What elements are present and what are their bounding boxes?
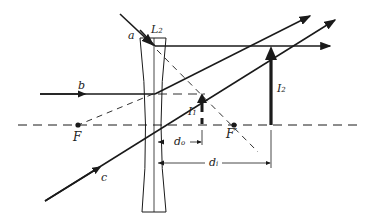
- image-i1-label: I1: [188, 106, 197, 117]
- lens-label: L2: [151, 24, 163, 35]
- ray-diagram: a b c L2 F F′ I1 I2 do di: [0, 0, 365, 221]
- focal-point-f: [75, 122, 80, 127]
- ray-a-label: a: [128, 30, 135, 41]
- ray-b-label: b: [78, 80, 85, 91]
- image-i2-label: I2: [277, 83, 286, 94]
- image-i2-arrow: [265, 46, 277, 125]
- image-i1-arrow: [197, 93, 207, 124]
- focal-point-f-label: F: [73, 131, 81, 143]
- distance-di-label: di: [209, 157, 218, 168]
- distance-do-label: do: [174, 136, 185, 147]
- focal-point-f-prime-label: F′: [226, 128, 237, 140]
- ray-c-label: c: [101, 172, 107, 183]
